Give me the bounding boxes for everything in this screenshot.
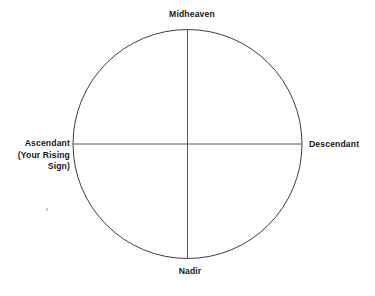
label-midheaven: Midheaven: [5, 9, 375, 21]
label-descendant: Descendant: [309, 139, 359, 151]
label-ascendant-line-3: Sign): [0, 161, 70, 173]
label-nadir: Nadir: [3, 266, 375, 278]
page-speck-artifact: [46, 208, 48, 211]
label-ascendant-line-2: (Your Rising: [0, 150, 70, 162]
astrology-axes-diagram: Midheaven Nadir Descendant Ascendant (Yo…: [0, 0, 375, 296]
label-ascendant: Ascendant (Your Rising Sign): [0, 138, 70, 173]
label-ascendant-line-1: Ascendant: [0, 138, 70, 150]
